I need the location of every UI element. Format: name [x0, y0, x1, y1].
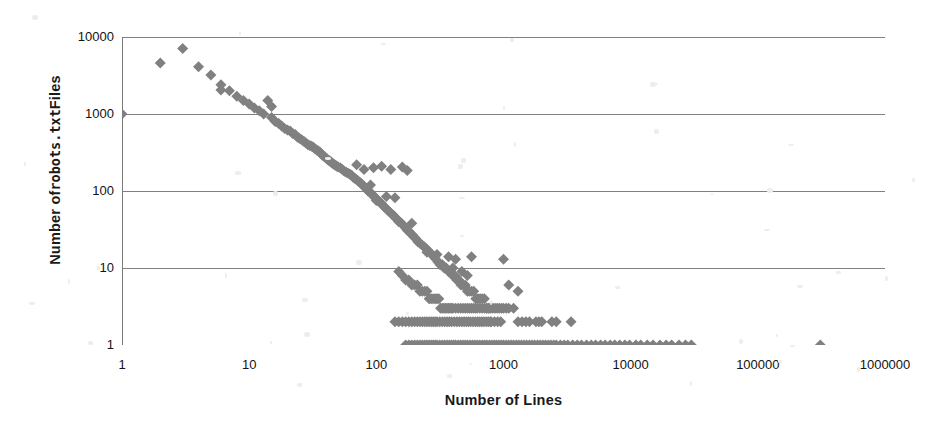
scan-noise-speck: [88, 341, 93, 345]
scan-noise-speck: [857, 367, 860, 372]
data-point: [177, 43, 188, 54]
scan-noise-speck: [788, 144, 794, 146]
scan-noise-speck: [711, 193, 713, 195]
scan-noise-speck: [356, 260, 362, 265]
scan-noise-speck: [239, 32, 241, 35]
data-point: [566, 316, 577, 327]
data-point: [498, 254, 509, 265]
scan-noise-speck: [29, 302, 35, 305]
scan-noise-speck: [514, 142, 516, 147]
data-point: [205, 70, 216, 81]
x-axis-tick-label: 10: [189, 358, 309, 371]
scan-noise-speck: [458, 164, 463, 169]
scan-noise-speck: [510, 38, 514, 42]
scan-noise-speck: [654, 129, 659, 134]
y-axis-tick-label: 100: [52, 184, 114, 197]
scan-noise-speck: [447, 374, 452, 378]
scan-noise-speck: [690, 381, 692, 386]
x-axis-tick-labels: 1101001000100001000001000000: [0, 358, 939, 378]
scan-noise-speck: [797, 285, 803, 288]
x-axis-tick-label: 10000: [571, 358, 691, 371]
scan-noise-speck: [790, 345, 795, 347]
scan-noise-speck: [459, 197, 465, 199]
scan-noise-speck: [381, 43, 386, 45]
x-axis-title: Number of Lines: [122, 392, 885, 408]
scan-noise-speck: [273, 191, 278, 196]
scan-noise-speck: [836, 271, 841, 274]
scan-noise-speck: [470, 363, 472, 365]
x-axis-tick-label: 1000000: [825, 358, 939, 371]
y-axis-tick-label: 10: [52, 261, 114, 274]
data-point: [466, 251, 477, 262]
data-point: [122, 109, 128, 120]
data-point: [503, 280, 514, 291]
scan-noise-speck: [764, 229, 770, 231]
scan-noise-speck: [32, 15, 38, 20]
scatter-chart: Number of robots.txt Files 1101001000100…: [0, 0, 939, 432]
scan-noise-speck: [776, 334, 778, 337]
data-point: [815, 340, 826, 346]
scan-noise-speck: [304, 332, 310, 337]
data-point: [376, 161, 387, 172]
scan-noise-speck: [24, 162, 26, 166]
data-point: [512, 286, 523, 297]
scan-noise-speck: [325, 157, 331, 160]
data-point: [389, 192, 400, 203]
scan-noise-speck: [297, 383, 302, 387]
scan-noise-speck: [270, 341, 272, 344]
scan-noise-speck: [767, 188, 773, 193]
scan-noise-speck: [97, 266, 100, 270]
scan-noise-speck: [302, 298, 308, 302]
y-axis-tick-label: 1: [52, 338, 114, 351]
scan-noise-speck: [225, 273, 227, 278]
x-axis-tick-label: 1: [62, 358, 182, 371]
scan-noise-speck: [490, 300, 492, 305]
scan-noise-speck: [68, 279, 70, 284]
scan-noise-speck: [654, 83, 658, 85]
scan-noise-speck: [912, 178, 915, 182]
scan-noise-speck: [460, 235, 464, 237]
scatter-series: [122, 43, 826, 345]
y-axis-tick-label: 10000: [52, 30, 114, 43]
scan-noise-speck: [739, 339, 743, 344]
x-axis-tick-label: 100: [316, 358, 436, 371]
data-point: [385, 164, 396, 175]
scan-noise-speck: [778, 360, 782, 363]
scan-noise-speck: [461, 158, 466, 163]
scan-noise-speck: [615, 286, 620, 289]
scan-noise-speck: [503, 106, 505, 110]
scan-noise-speck: [235, 171, 241, 175]
scan-noise-speck: [406, 312, 409, 315]
data-point: [193, 61, 204, 72]
data-point: [368, 162, 379, 173]
x-axis-tick-label: 100000: [698, 358, 818, 371]
data-point: [155, 57, 166, 68]
y-axis-tick-label: 1000: [52, 107, 114, 120]
x-axis-tick-label: 1000: [444, 358, 564, 371]
scan-noise-speck: [885, 276, 888, 281]
